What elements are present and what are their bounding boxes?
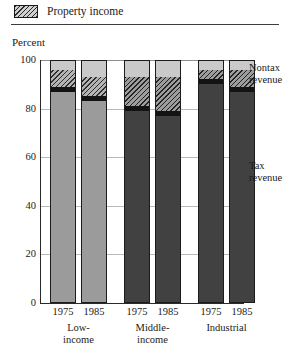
segment-property-income <box>155 77 181 111</box>
bar-middle-income-1975[interactable] <box>124 60 150 303</box>
plot-area: 100806040200197519851975198519751985Low-… <box>40 60 244 304</box>
x-axis-year-industrial-1985: 1985 <box>222 306 262 317</box>
legend-label: Property income <box>47 6 123 17</box>
x-axis-year-middle-income-1985: 1985 <box>148 306 188 317</box>
group-label-line1: Industrial <box>184 322 270 334</box>
segment-nontax-revenue <box>81 60 107 77</box>
segment-nontax-revenue <box>155 60 181 77</box>
x-axis-year-low-income-1985: 1985 <box>74 306 114 317</box>
y-axis-tick-40: 40 <box>26 201 37 212</box>
y-axis-tick-80: 80 <box>26 103 37 114</box>
bar-low-income-1985[interactable] <box>81 60 107 303</box>
segment-property-income <box>81 77 107 96</box>
y-axis-title: Percent <box>12 36 45 48</box>
segment-nontax-revenue <box>198 60 224 70</box>
segment-tax-revenue <box>229 92 255 303</box>
nontax-annotation-line1: Nontax <box>249 62 291 74</box>
segment-nontax-revenue <box>124 60 150 77</box>
segment-nontax-revenue <box>50 60 76 70</box>
figure: Property income Percent 1008060402001975… <box>0 0 291 363</box>
segment-tax-revenue <box>81 101 107 303</box>
x-axis-group-label-2: Industrial <box>184 322 270 334</box>
segment-property-income <box>50 70 76 87</box>
bar-low-income-1975[interactable] <box>50 60 76 303</box>
segment-property-income <box>198 70 224 80</box>
tax-annotation-line2: revenue <box>249 172 291 184</box>
bar-industrial-1975[interactable] <box>198 60 224 303</box>
tax-revenue-annotation: Tax revenue <box>249 160 291 183</box>
bar-middle-income-1985[interactable] <box>155 60 181 303</box>
segment-property-income <box>124 77 150 106</box>
tax-annotation-line1: Tax <box>249 160 291 172</box>
group-label-line2: income <box>110 334 196 346</box>
segment-tax-revenue <box>198 84 224 303</box>
segment-tax-revenue <box>124 111 150 303</box>
legend-divider <box>11 24 279 25</box>
nontax-revenue-annotation: Nontax revenue <box>249 62 291 85</box>
legend: Property income <box>14 5 123 18</box>
y-axis-tick-20: 20 <box>26 249 37 260</box>
nontax-annotation-line2: revenue <box>249 74 291 86</box>
diagonal-hatch-swatch-icon <box>14 5 38 18</box>
segment-tax-revenue <box>155 116 181 303</box>
segment-tax-revenue <box>50 92 76 303</box>
y-axis-tick-0: 0 <box>31 298 36 309</box>
y-axis-tick-60: 60 <box>26 152 37 163</box>
y-axis-tick-100: 100 <box>20 55 36 66</box>
